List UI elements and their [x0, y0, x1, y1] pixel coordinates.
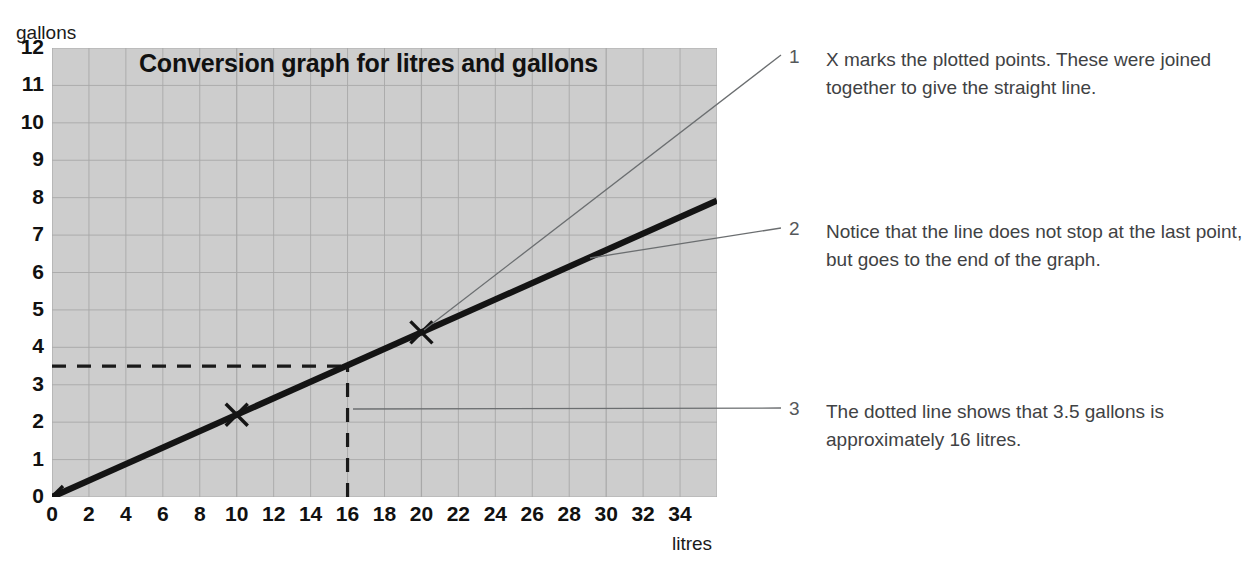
- annotation-text-1: X marks the plotted points. These were j…: [826, 46, 1246, 102]
- y-tick-label: 2: [4, 409, 44, 433]
- x-tick-label: 22: [438, 502, 478, 526]
- y-tick-label: 9: [4, 147, 44, 171]
- y-tick-label: 6: [4, 260, 44, 284]
- chart-title: Conversion graph for litres and gallons: [139, 49, 598, 78]
- annotation-number-3: 3: [789, 398, 809, 420]
- conversion-graph-figure: gallons litres 1211109876543210 02468101…: [0, 0, 1255, 565]
- x-axis-caption: litres: [672, 533, 712, 555]
- x-tick-label: 14: [291, 502, 331, 526]
- y-tick-label: 4: [4, 334, 44, 358]
- x-tick-label: 28: [549, 502, 589, 526]
- x-tick-label: 2: [69, 502, 109, 526]
- x-tick-label: 16: [328, 502, 368, 526]
- annotation-text-3: The dotted line shows that 3.5 gallons i…: [826, 398, 1246, 454]
- y-tick-label: 7: [4, 222, 44, 246]
- x-tick-label: 18: [365, 502, 405, 526]
- x-tick-label: 26: [512, 502, 552, 526]
- x-tick-label: 6: [143, 502, 183, 526]
- x-tick-label: 12: [254, 502, 294, 526]
- x-tick-label: 20: [401, 502, 441, 526]
- x-tick-label: 4: [106, 502, 146, 526]
- grid-lines: [52, 48, 717, 497]
- x-tick-label: 8: [180, 502, 220, 526]
- x-tick-label: 32: [623, 502, 663, 526]
- x-tick-label: 34: [660, 502, 700, 526]
- x-tick-label: 10: [217, 502, 257, 526]
- annotation-number-1: 1: [789, 46, 809, 68]
- plot-area: [52, 48, 717, 497]
- y-tick-label: 12: [4, 35, 44, 59]
- y-tick-label: 11: [4, 72, 44, 96]
- y-tick-label: 3: [4, 372, 44, 396]
- annotation-number-2: 2: [789, 218, 809, 240]
- y-tick-label: 8: [4, 185, 44, 209]
- plot-graphics: [52, 48, 717, 497]
- x-tick-label: 24: [475, 502, 515, 526]
- y-tick-label: 10: [4, 110, 44, 134]
- annotation-text-2: Notice that the line does not stop at th…: [826, 218, 1246, 274]
- y-tick-label: 1: [4, 447, 44, 471]
- x-tick-label: 0: [32, 502, 72, 526]
- x-tick-label: 30: [586, 502, 626, 526]
- y-tick-label: 5: [4, 297, 44, 321]
